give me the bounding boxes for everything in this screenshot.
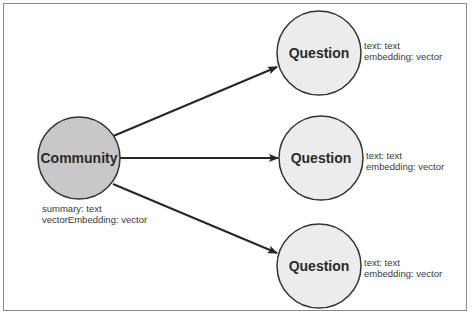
question-node-bottom[interactable]: Question (277, 224, 361, 308)
question-bottom-property-text: text: text (364, 257, 442, 268)
question-middle-properties: text: text embedding: vector (366, 150, 444, 172)
question-top-property-embedding: embedding: vector (364, 51, 442, 62)
question-node-top[interactable]: Question (277, 11, 361, 95)
community-property-vector-embedding: vectorEmbedding: vector (42, 214, 147, 225)
question-middle-property-text: text: text (366, 150, 444, 161)
community-node-label: Community (41, 150, 118, 166)
question-node-top-label: Question (289, 45, 350, 61)
question-top-property-text: text: text (364, 40, 442, 51)
question-node-middle[interactable]: Question (279, 116, 363, 200)
question-bottom-property-embedding: embedding: vector (364, 268, 442, 279)
question-top-properties: text: text embedding: vector (364, 40, 442, 62)
edge-community-to-question-top (111, 67, 277, 137)
question-node-bottom-label: Question (289, 258, 350, 274)
question-bottom-properties: text: text embedding: vector (364, 257, 442, 279)
question-node-middle-label: Question (291, 150, 352, 166)
community-properties: summary: text vectorEmbedding: vector (42, 203, 147, 225)
community-node[interactable]: Community (38, 117, 120, 199)
question-middle-property-embedding: embedding: vector (366, 161, 444, 172)
community-property-summary: summary: text (42, 203, 147, 214)
